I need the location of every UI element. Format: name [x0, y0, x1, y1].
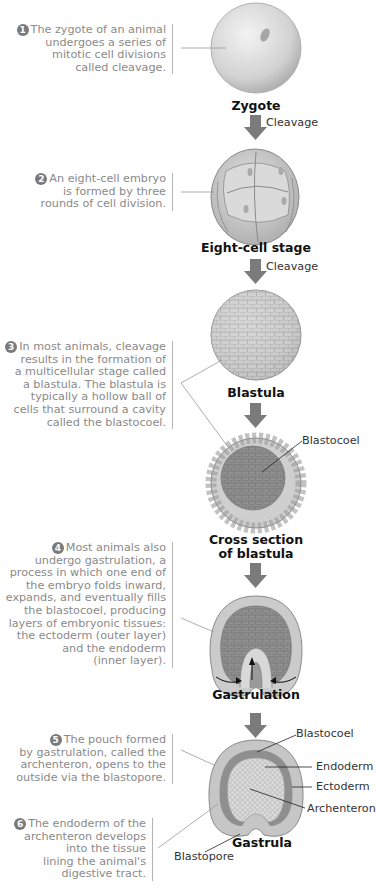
arrow-label-cleavage: Cleavage	[266, 260, 318, 273]
step-number-badge: 5	[50, 734, 62, 746]
step-3-caption: 3In most animals, cleavage results in th…	[5, 341, 173, 429]
label-archenteron: Archenteron	[307, 802, 376, 815]
step-number-badge: 6	[14, 818, 26, 830]
label-ectoderm: Ectoderm	[316, 780, 370, 793]
arrow-down-icon	[244, 563, 267, 588]
step-number-badge: 1	[17, 24, 29, 36]
blastula-illustration	[211, 290, 301, 380]
step-number-badge: 2	[35, 173, 47, 185]
blastula-cross-section-illustration	[211, 438, 301, 528]
arrow-down-icon	[244, 259, 267, 284]
step-1-caption: 1The zygote of an animal undergoes a ser…	[17, 24, 173, 74]
eight-cell-illustration	[211, 149, 299, 245]
step-number-badge: 3	[5, 341, 17, 353]
step-2-caption: 2An eight-cell embryo is formed by three…	[35, 173, 173, 211]
step-4-caption: 4Most animals also undergo gastrulation,…	[6, 542, 173, 668]
stage-label-gastrulation: Gastrulation	[196, 688, 316, 702]
stage-label-blastula: Blastula	[206, 386, 306, 400]
arrow-down-icon	[244, 713, 267, 738]
step-5-caption: 5The pouch formed by gastrulation, calle…	[16, 734, 173, 784]
gastrula-illustration	[209, 740, 303, 836]
stage-label-gastrula: Gastrula	[212, 836, 312, 850]
step-6-caption: 6The endoderm of the archenteron develop…	[14, 818, 153, 881]
label-blastocoel: Blastocoel	[302, 434, 360, 447]
stage-label-zygote: Zygote	[206, 99, 306, 113]
arrow-down-icon	[244, 115, 267, 140]
stage-label-cross-section: Cross section of blastula	[196, 533, 316, 561]
stage-label-eight-cell: Eight-cell stage	[196, 241, 316, 255]
arrow-label-cleavage: Cleavage	[266, 116, 318, 129]
label-endoderm: Endoderm	[316, 760, 373, 773]
step-number-badge: 4	[52, 542, 64, 554]
label-blastopore: Blastopore	[174, 850, 234, 863]
label-blastocoel: Blastocoel	[296, 727, 354, 740]
arrow-down-icon	[244, 403, 267, 428]
